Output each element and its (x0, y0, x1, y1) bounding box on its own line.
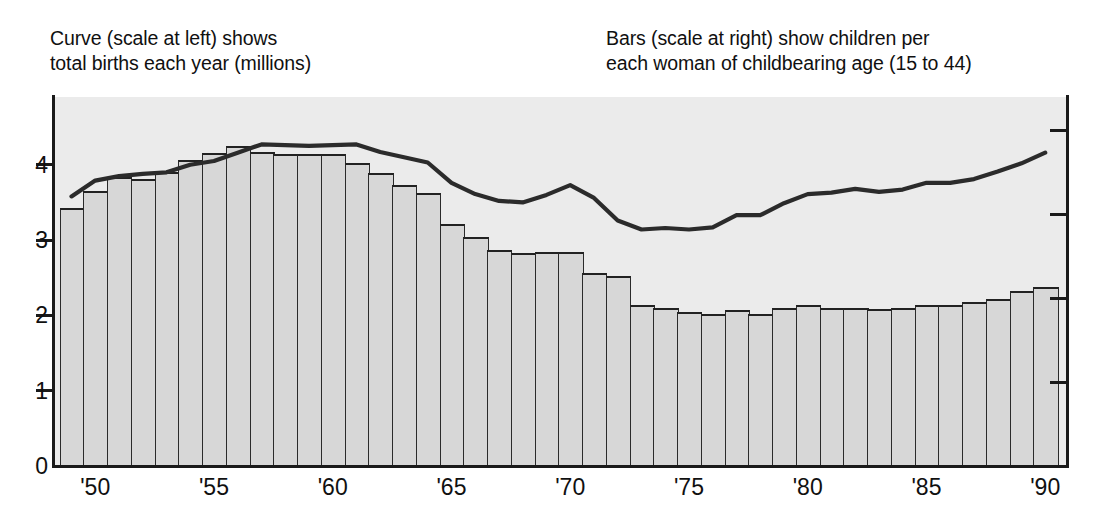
y-axis-left-label: 4 (18, 151, 48, 178)
x-axis-label: '85 (911, 474, 941, 501)
x-axis-label: '65 (436, 474, 466, 501)
x-axis-label: '60 (318, 474, 348, 501)
x-axis-label: '80 (793, 474, 823, 501)
y-axis-right-tick (1050, 129, 1069, 132)
x-axis-label: '90 (1030, 474, 1060, 501)
y-axis-right-tick (1050, 213, 1069, 216)
x-axis-label: '75 (674, 474, 704, 501)
y-axis-left-label: 3 (18, 227, 48, 254)
x-axis-label: '55 (199, 474, 229, 501)
y-axis-left-label: 0 (18, 453, 48, 480)
y-axis-left-line (52, 95, 55, 468)
y-axis-left-label: 2 (18, 302, 48, 329)
births-curve-path (72, 144, 1046, 229)
x-axis-label: '50 (80, 474, 110, 501)
x-axis-label: '70 (555, 474, 585, 501)
legend-curve-caption: Curve (scale at left) shows total births… (50, 26, 311, 76)
y-axis-right-tick (1050, 381, 1069, 384)
y-axis-left-label: 1 (18, 377, 48, 404)
line-series (52, 97, 1068, 466)
legend-bars-caption: Bars (scale at right) show children per … (606, 26, 972, 76)
y-axis-right-tick (1050, 297, 1069, 300)
y-axis-right-line (1066, 95, 1069, 468)
chart-figure: Curve (scale at left) shows total births… (0, 0, 1093, 524)
x-axis-line (52, 465, 1069, 468)
